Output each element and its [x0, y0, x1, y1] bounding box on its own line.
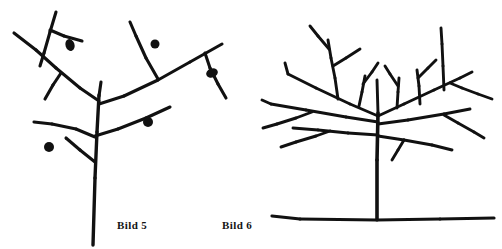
- left-branch-27: [34, 122, 52, 124]
- right-branch-14: [293, 128, 318, 130]
- caption-bild-6: Bild 6: [222, 219, 252, 231]
- caption-bild-5: Bild 5: [117, 219, 147, 231]
- ground-seg-2: [377, 219, 440, 220]
- right-branch-54: [442, 44, 443, 66]
- tree-illustration: [0, 0, 502, 249]
- right-branch-55: [441, 28, 442, 44]
- right-tree-trunk: [377, 113, 378, 219]
- left-trunk-1: [95, 132, 97, 178]
- right-trunk-0: [377, 113, 378, 160]
- ground-seg-1: [300, 219, 377, 220]
- ground-seg-3: [440, 218, 494, 219]
- figure-background: [0, 0, 502, 249]
- left-trunk-0: [97, 95, 99, 132]
- right-branch-49: [397, 92, 398, 108]
- figure-page: Bild 5 Bild 6: [0, 0, 502, 249]
- right-branch-0: [377, 80, 378, 113]
- left-trunk-2: [93, 178, 95, 245]
- right-branch-45: [419, 86, 420, 104]
- right-branch-12: [348, 133, 378, 135]
- fruit-3: [143, 117, 153, 127]
- right-branch-53: [443, 66, 444, 90]
- fruit-4: [44, 142, 54, 152]
- fruit-1: [151, 40, 160, 49]
